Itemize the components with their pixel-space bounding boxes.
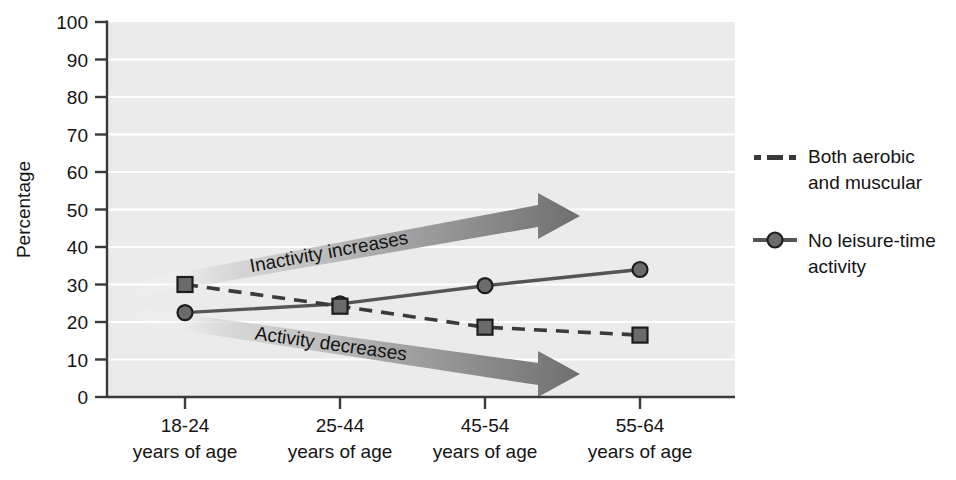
y-tick-label: 70 — [67, 125, 88, 146]
y-tick-label: 50 — [67, 200, 88, 221]
x-tick-label-unit: years of age — [288, 441, 393, 462]
legend-item-no-leisure-time-activity[interactable]: No leisure-time activity — [753, 230, 936, 277]
y-tick-label: 100 — [56, 12, 88, 33]
y-axis-tick-labels: 100 90 80 70 60 50 40 30 20 10 0 — [56, 12, 88, 408]
y-tick-label: 60 — [67, 162, 88, 183]
y-tick-label: 30 — [67, 275, 88, 296]
data-point-square — [178, 277, 193, 292]
x-tick-label-unit: years of age — [433, 441, 538, 462]
chart-figure: Inactivity increases Activity decreases — [0, 0, 956, 480]
x-tick-label-unit: years of age — [588, 441, 693, 462]
legend-label-line2: activity — [808, 256, 867, 277]
circle-line-icon — [753, 233, 797, 248]
data-point-circle — [478, 278, 493, 293]
x-tick-label-unit: years of age — [133, 441, 238, 462]
y-axis-title: Percentage — [13, 161, 34, 258]
y-tick-label: 0 — [77, 387, 88, 408]
legend-label-line1: Both aerobic — [808, 146, 915, 167]
x-tick-label-range: 25-44 — [316, 415, 365, 436]
data-point-square — [478, 320, 493, 335]
x-tick-label-range: 18-24 — [161, 415, 210, 436]
y-tick-label: 80 — [67, 87, 88, 108]
x-axis-ticks — [185, 397, 640, 409]
data-point-circle — [633, 262, 648, 277]
legend-label-line1: No leisure-time — [808, 230, 936, 251]
data-point-square — [633, 328, 648, 343]
line-chart: Inactivity increases Activity decreases — [0, 0, 956, 480]
data-point-square — [333, 299, 348, 314]
x-axis-tick-labels: 18-24 years of age 25-44 years of age 45… — [133, 415, 693, 462]
chart-legend: Both aerobic and muscular No leisure-tim… — [753, 146, 936, 277]
y-tick-label: 40 — [67, 237, 88, 258]
x-tick-label-range: 55-64 — [616, 415, 665, 436]
y-axis-ticks — [95, 22, 107, 397]
legend-item-both-aerobic-and-muscular[interactable]: Both aerobic and muscular — [754, 146, 923, 193]
data-point-circle — [178, 305, 193, 320]
y-tick-label: 20 — [67, 312, 88, 333]
x-tick-label-range: 45-54 — [461, 415, 510, 436]
y-tick-label: 90 — [67, 50, 88, 71]
legend-label-line2: and muscular — [808, 172, 923, 193]
y-tick-label: 10 — [67, 350, 88, 371]
dashed-line-icon — [754, 155, 796, 160]
